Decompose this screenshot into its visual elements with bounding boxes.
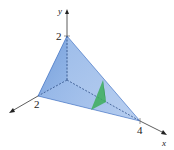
x-axis-label: x: [161, 138, 166, 148]
x-axis: [140, 121, 167, 135]
tetrahedron: [38, 36, 140, 121]
tetrahedron-diagram: y 2 2 4 x: [0, 0, 174, 150]
z-tick-label: 2: [34, 98, 40, 110]
y-tick-label: 2: [56, 30, 62, 42]
x-tick-label: 4: [137, 124, 143, 136]
y-axis-label: y: [57, 6, 62, 16]
